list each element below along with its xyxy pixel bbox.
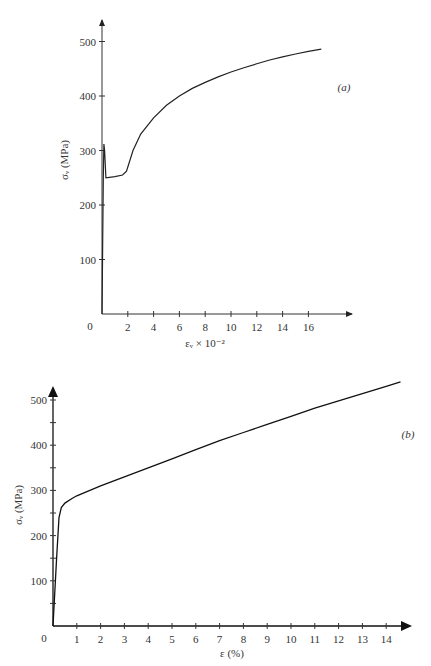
chart-b-panel-label: (b) (402, 428, 415, 441)
x-tick-label: 2 (98, 633, 104, 645)
x-tick-label: 12 (251, 321, 262, 333)
x-tick-label: 8 (202, 321, 208, 333)
x-tick-label: 14 (277, 321, 289, 333)
chart-b-y-ticks: 100200300400500 (31, 394, 57, 603)
y-tick-label: 500 (31, 394, 48, 406)
x-tick-label: 5 (169, 633, 175, 645)
y-tick-label: 100 (31, 575, 48, 587)
x-tick-label: 9 (264, 633, 270, 645)
y-tick-label: 300 (31, 484, 48, 496)
y-tick-label: 300 (80, 145, 97, 157)
x-tick-label: 3 (122, 633, 128, 645)
figure: 100200300400500 246810121416 0 σᵥ (MPa) … (0, 0, 431, 666)
y-tick-label: 200 (80, 199, 97, 211)
chart-a-x-axis-title: εᵥ × 10⁻² (185, 337, 225, 349)
chart-a-y-axis-title: σᵥ (MPa) (58, 140, 71, 180)
x-tick-label: 13 (357, 633, 369, 645)
x-tick-label: 7 (217, 633, 223, 645)
x-tick-label: 6 (177, 321, 183, 333)
chart-a-panel-label: (a) (338, 81, 351, 94)
x-tick-label: 10 (226, 321, 238, 333)
chart-b-origin-label: 0 (41, 632, 47, 644)
x-tick-label: 4 (151, 321, 157, 333)
chart-a-curve (102, 49, 321, 314)
y-tick-label: 400 (31, 439, 48, 451)
chart-b-y-axis-title: σᵥ (MPa) (12, 485, 25, 525)
y-tick-label: 400 (80, 90, 97, 102)
x-tick-label: 14 (381, 633, 393, 645)
y-tick-label: 200 (31, 530, 48, 542)
x-tick-label: 11 (310, 633, 321, 645)
x-tick-label: 10 (286, 633, 298, 645)
y-tick-label: 100 (80, 254, 97, 266)
chart-a-origin-label: 0 (87, 320, 93, 332)
x-tick-label: 2 (125, 321, 131, 333)
x-tick-label: 8 (241, 633, 247, 645)
chart-a-y-ticks: 100200300400500 (80, 36, 106, 266)
x-tick-label: 4 (145, 633, 151, 645)
chart-b: 100200300400500 1234567891011121314 0 σᵥ… (12, 382, 415, 660)
x-tick-label: 12 (333, 633, 344, 645)
chart-a: 100200300400500 246810121416 0 σᵥ (MPa) … (58, 20, 352, 349)
chart-b-x-axis-title: ε (%) (220, 647, 244, 660)
x-tick-label: 1 (74, 633, 80, 645)
chart-b-curve (53, 382, 401, 626)
y-tick-label: 500 (80, 36, 97, 48)
x-tick-label: 16 (303, 321, 315, 333)
x-tick-label: 6 (193, 633, 199, 645)
